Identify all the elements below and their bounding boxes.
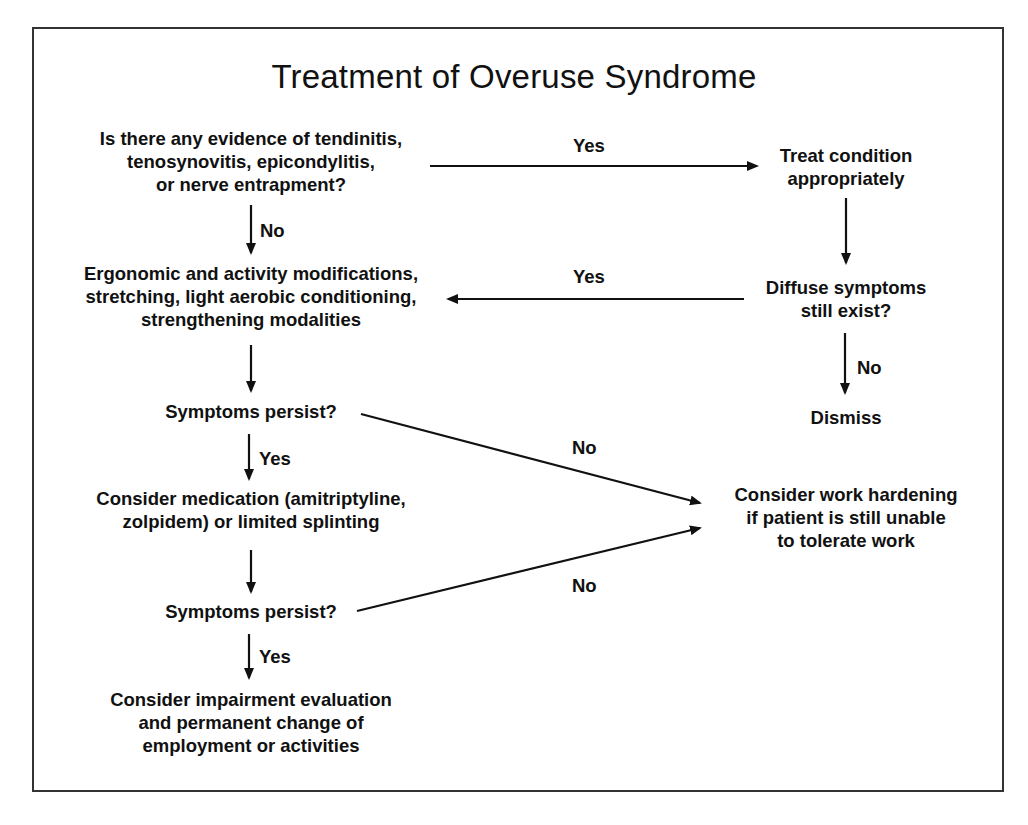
edge-label-symptoms2-yes: Yes	[259, 646, 291, 668]
node-impairment-evaluation: Consider impairment evaluation and perma…	[110, 688, 392, 757]
figure-caption-clipped	[35, 815, 175, 825]
node-line: Symptoms persist?	[165, 600, 337, 623]
node-line: employment or activities	[110, 734, 392, 757]
node-line: Treat condition	[780, 144, 913, 167]
node-line: Consider impairment evaluation	[110, 688, 392, 711]
edge-label-symptoms1-yes: Yes	[259, 448, 291, 470]
node-evidence-question: Is there any evidence of tendinitis, ten…	[100, 127, 402, 196]
node-line: tenosynovitis, epicondylitis,	[100, 150, 402, 173]
edge-label-symptoms2-no: No	[572, 575, 597, 597]
edge-label-diffuse-no: No	[857, 357, 882, 379]
node-line: zolpidem) or limited splinting	[96, 510, 405, 533]
node-line: appropriately	[780, 167, 913, 190]
node-line: Diffuse symptoms	[766, 276, 926, 299]
node-line: Is there any evidence of tendinitis,	[100, 127, 402, 150]
edge-label-evidence-yes: Yes	[573, 135, 605, 157]
node-work-hardening: Consider work hardening if patient is st…	[734, 483, 957, 552]
arrow-symptoms2-to-workhardening	[357, 528, 700, 611]
edge-label-evidence-no: No	[260, 220, 285, 242]
node-line: Ergonomic and activity modifications,	[84, 262, 418, 285]
node-line: Consider work hardening	[734, 483, 957, 506]
node-line: strengthening modalities	[84, 308, 418, 331]
arrow-symptoms1-to-workhardening	[361, 414, 700, 503]
node-symptoms-persist-2: Symptoms persist?	[165, 600, 337, 623]
node-dismiss: Dismiss	[811, 406, 882, 429]
node-medication: Consider medication (amitriptyline, zolp…	[96, 487, 405, 533]
node-line: and permanent change of	[110, 711, 392, 734]
edge-label-diffuse-yes: Yes	[573, 266, 605, 288]
node-line: if patient is still unable	[734, 506, 957, 529]
node-line: stretching, light aerobic conditioning,	[84, 285, 418, 308]
node-line: Dismiss	[811, 406, 882, 429]
node-line: to tolerate work	[734, 529, 957, 552]
node-symptoms-persist-1: Symptoms persist?	[165, 400, 337, 423]
node-line: Symptoms persist?	[165, 400, 337, 423]
edge-label-symptoms1-no: No	[572, 437, 597, 459]
node-line: or nerve entrapment?	[100, 173, 402, 196]
node-diffuse-symptoms: Diffuse symptoms still exist?	[766, 276, 926, 322]
node-line: still exist?	[766, 299, 926, 322]
node-ergonomic-modifications: Ergonomic and activity modifications, st…	[84, 262, 418, 331]
node-line: Consider medication (amitriptyline,	[96, 487, 405, 510]
node-treat-condition: Treat condition appropriately	[780, 144, 913, 190]
